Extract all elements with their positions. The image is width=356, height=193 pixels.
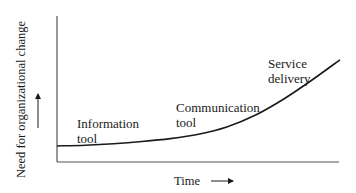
annotation-line: delivery (268, 71, 311, 86)
y-axis-label: Need for organizational change (14, 21, 28, 178)
annotation-line: Communication (176, 100, 260, 115)
diagram: Need for organizational change Time Info… (0, 0, 356, 193)
annotation-line: Information (77, 116, 140, 131)
annotation-communication-tool: Communication tool (176, 100, 263, 130)
annotation-line: tool (176, 115, 197, 130)
annotation-line: Service (268, 56, 307, 71)
x-axis-label: Time (174, 174, 200, 188)
annotation-line: tool (77, 131, 98, 146)
annotation-information-tool: Information tool (77, 116, 142, 146)
annotation-service-delivery: Service delivery (268, 56, 311, 86)
